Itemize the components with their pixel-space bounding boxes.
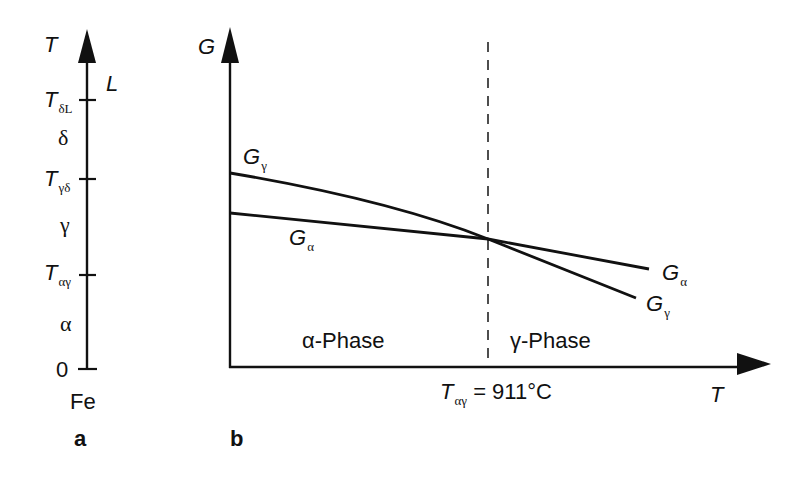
alpha-region-label: α	[60, 313, 72, 335]
zero-label: 0	[56, 359, 68, 381]
diagram-canvas	[0, 0, 811, 485]
delta-region-label: δ	[58, 127, 68, 149]
tick-label-t-alpha-gamma: Tαγ	[44, 262, 71, 284]
g-gamma-label-left: Gγ	[243, 146, 267, 168]
tick-label-t-delta-l: TδL	[44, 89, 73, 111]
element-label-fe: Fe	[70, 391, 96, 413]
liquid-region-label: L	[106, 73, 118, 95]
gamma-region-label: γ	[60, 214, 70, 236]
arrow-up-icon	[221, 27, 239, 63]
gamma-phase-label: γ-Phase	[510, 330, 591, 352]
arrow-right-icon	[737, 353, 771, 375]
g-axis-label: G	[198, 36, 215, 58]
g-gamma-label-right: Gγ	[646, 293, 670, 315]
panel-a-label: a	[74, 428, 86, 450]
t-axis-label: T	[710, 384, 723, 406]
panel-b-axes	[221, 27, 771, 375]
panel-a-axis	[78, 29, 97, 369]
arrow-up-icon	[78, 29, 96, 63]
panel-b-label: b	[230, 428, 243, 450]
tick-label-t-gamma-delta: Tγδ	[44, 168, 70, 190]
panel-a-axis-label: T	[44, 34, 57, 56]
g-alpha-label-right: Gα	[662, 262, 687, 284]
g-alpha-label-left: Gα	[289, 227, 314, 249]
alpha-phase-label: α-Phase	[302, 330, 384, 352]
transition-temperature-label: Tαγ = 911°C	[440, 381, 552, 403]
